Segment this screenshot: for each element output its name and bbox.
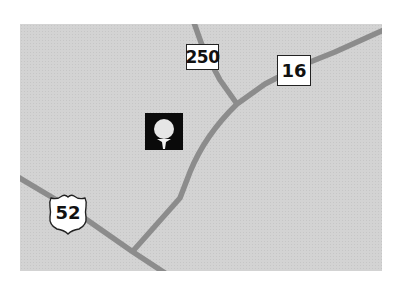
route-250-shield: 250	[186, 44, 219, 70]
route-16-label: 16	[281, 60, 306, 81]
road-52	[18, 177, 168, 275]
road-network	[0, 0, 402, 281]
route-52-label: 52	[46, 202, 90, 223]
golf-ball-on-tee-icon	[145, 113, 183, 150]
route-16-shield: 16	[277, 55, 311, 86]
golf-course-marker[interactable]	[145, 113, 183, 150]
route-250-label: 250	[186, 47, 220, 67]
us-route-52-shield: 52	[46, 193, 90, 235]
